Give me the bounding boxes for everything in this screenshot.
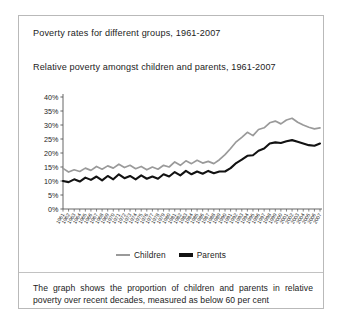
line-chart: 0%5%10%15%20%25%30%35%40% 19611962196319… [18,88,326,258]
chart-legend: Children Parents [18,250,324,260]
legend-item-parents: Parents [179,250,226,260]
y-axis-tick-label: 25% [44,135,59,144]
series-line-children [63,118,320,172]
y-axis-tick-label: 35% [44,107,59,116]
x-axis: 1961196219631964196519661967196819691970… [55,209,323,225]
y-axis-tick-label: 30% [44,121,59,130]
y-axis-tick-label: 20% [44,149,59,158]
y-axis-tick-label: 15% [44,163,59,172]
caption-divider [19,272,323,273]
y-axis-tick-label: 10% [44,177,59,186]
chart-plot-area: 0%5%10%15%20%25%30%35%40% 19611962196319… [18,88,326,258]
legend-label-parents: Parents [197,250,226,260]
legend-item-children: Children [116,250,166,260]
figure-caption: The graph shows the proportion of childr… [33,282,313,306]
series-line-parents [63,140,320,182]
y-axis-tick-label: 40% [44,93,59,102]
data-series-group [63,118,320,182]
legend-label-children: Children [134,250,166,260]
legend-swatch-children-icon [116,254,130,256]
legend-swatch-parents-icon [179,253,193,256]
figure-title: Poverty rates for different groups, 1961… [33,28,323,38]
y-axis: 0%5%10%15%20%25%30%35%40% [44,93,63,214]
y-axis-tick-label: 0% [48,205,59,214]
chart-title: Relative poverty amongst children and pa… [33,62,323,72]
y-axis-tick-label: 5% [48,191,59,200]
